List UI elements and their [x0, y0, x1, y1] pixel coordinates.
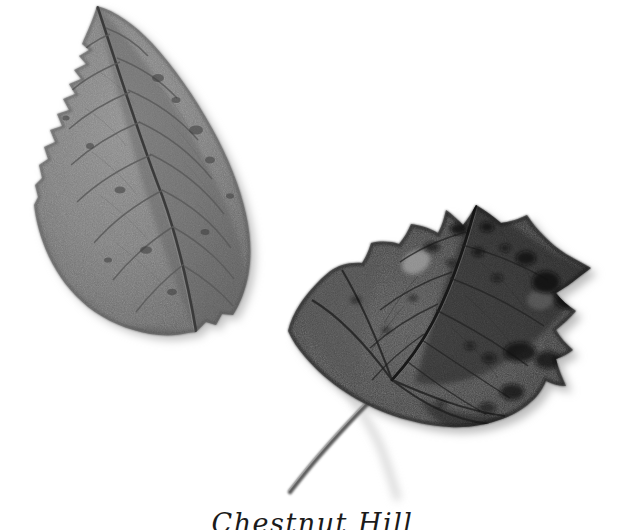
right-leaf-light-patch-2	[527, 290, 553, 310]
specimen-plate: Chestnut Hill	[0, 0, 625, 530]
leaf-specimen-figure	[0, 0, 625, 530]
